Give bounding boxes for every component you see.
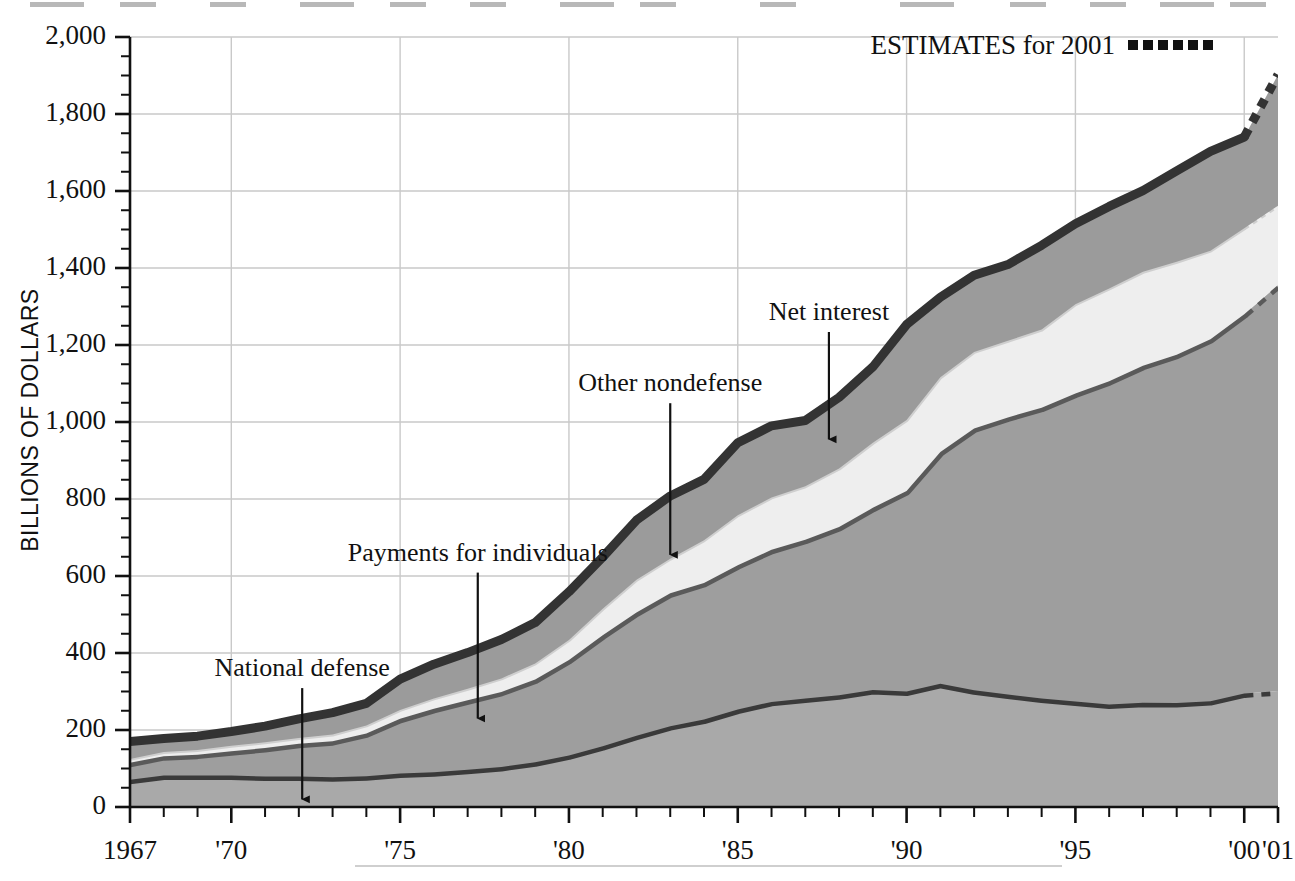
legend-dot	[1188, 40, 1198, 50]
x-tick-label: '85	[722, 835, 754, 865]
y-tick-label: 0	[93, 790, 107, 820]
stacked-area-chart: 02004006008001,0001,2001,4001,6001,8002,…	[0, 0, 1295, 881]
x-tick-label: '01	[1262, 835, 1294, 865]
top-text-fragment	[640, 2, 676, 7]
top-text-fragment	[1230, 2, 1266, 7]
legend-dot	[1158, 40, 1168, 50]
x-tick-label: '90	[891, 835, 923, 865]
top-text-fragment	[1010, 2, 1046, 7]
annotation-label: Other nondefense	[578, 368, 762, 397]
legend-dot	[1143, 40, 1153, 50]
y-tick-label: 400	[66, 636, 107, 666]
top-text-fragment	[300, 2, 354, 7]
top-text-fragment	[120, 2, 156, 7]
top-text-fragment	[390, 2, 426, 7]
y-tick-label: 1,200	[45, 328, 106, 358]
chart-container: 02004006008001,0001,2001,4001,6001,8002,…	[0, 0, 1295, 881]
y-axis-title: BILLIONS OF DOLLARS	[17, 288, 43, 551]
y-axis-ticks	[115, 37, 130, 807]
legend: ESTIMATES for 2001	[871, 30, 1214, 60]
top-text-fragment	[560, 2, 614, 7]
top-text-fragment	[30, 2, 84, 7]
top-text-fragment	[1090, 2, 1126, 7]
y-tick-label: 1,000	[45, 405, 106, 435]
top-text-fragment	[1160, 2, 1214, 7]
y-tick-label: 1,400	[45, 251, 106, 281]
x-axis-ticks	[130, 807, 1278, 823]
y-axis-tick-labels: 02004006008001,0001,2001,4001,6001,8002,…	[45, 20, 106, 820]
annotation-label: National defense	[214, 653, 389, 682]
y-tick-label: 1,600	[45, 174, 106, 204]
x-tick-label: '70	[215, 835, 247, 865]
x-tick-label: '75	[384, 835, 416, 865]
dotted-line-swatch-icon	[1128, 40, 1213, 50]
x-tick-label: '95	[1059, 835, 1091, 865]
legend-dot	[1128, 40, 1138, 50]
top-text-fragment	[470, 2, 506, 7]
x-axis-tick-labels: 1967'70'75'80'85'90'95'00'01	[103, 835, 1294, 865]
legend-dot	[1173, 40, 1183, 50]
y-tick-label: 600	[66, 559, 107, 589]
y-tick-label: 2,000	[45, 20, 106, 50]
legend-dot	[1203, 40, 1213, 50]
top-text-fragment	[760, 2, 796, 7]
top-text-fragment	[210, 2, 246, 7]
annotation-label: Payments for individuals	[348, 538, 608, 567]
x-tick-label: 1967	[103, 835, 157, 865]
y-tick-label: 800	[66, 482, 107, 512]
y-tick-label: 1,800	[45, 97, 106, 127]
x-tick-label: '00	[1228, 835, 1260, 865]
x-tick-label: '80	[553, 835, 585, 865]
page-top-fragment	[30, 2, 1266, 7]
annotation-label: Net interest	[769, 297, 890, 326]
y-tick-label: 200	[66, 713, 107, 743]
legend-label: ESTIMATES for 2001	[871, 30, 1116, 60]
top-text-fragment	[900, 2, 954, 7]
